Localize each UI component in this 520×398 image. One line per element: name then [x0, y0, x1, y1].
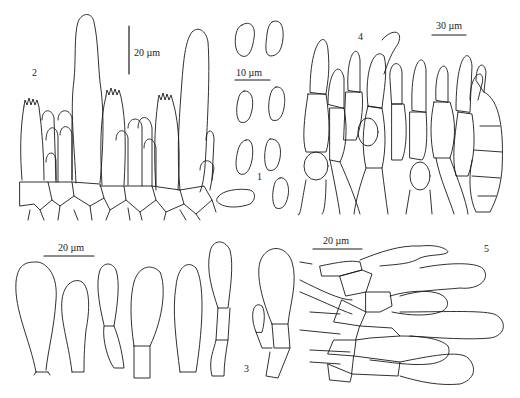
- panel-3-label: 3: [244, 363, 249, 374]
- scale-bar-label-panel-3: 20 µm: [58, 242, 84, 253]
- scale-bar-label-panel-5: 20 µm: [323, 235, 349, 246]
- panel-4-label: 4: [358, 31, 363, 42]
- figure-plate: 2 20 µm: [0, 0, 520, 398]
- panel-2-label: 2: [32, 67, 37, 78]
- scale-bar-label-panel-1: 10 µm: [236, 67, 262, 78]
- panel-1-spores: 10 µm 1: [217, 21, 289, 209]
- scale-bar-label-panel-2: 20 µm: [134, 47, 160, 58]
- panel-2-hymenium: 2 20 µm: [20, 15, 216, 221]
- panel-5-caulocystidia: 20 µm 5: [300, 235, 503, 385]
- panel-4-pileipellis: 4 30 µm: [298, 20, 502, 215]
- scale-bar-label-panel-4: 30 µm: [436, 20, 462, 31]
- panel-3-clavate-cells: 20 µm 3: [16, 242, 294, 378]
- panel-1-label: 1: [257, 171, 262, 182]
- panel-5-label: 5: [484, 243, 489, 254]
